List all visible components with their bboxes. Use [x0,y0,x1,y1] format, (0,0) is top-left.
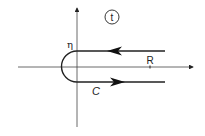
contour-diagram: t η R C [0,0,205,136]
eta-label: η [67,39,73,50]
region-label: t [111,12,114,23]
contour-label: C [92,85,100,97]
radius-label: R [146,55,153,66]
